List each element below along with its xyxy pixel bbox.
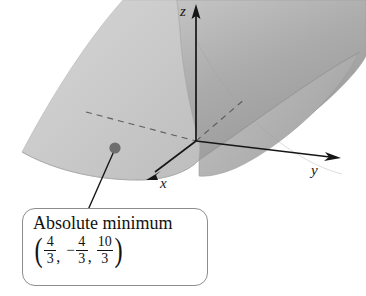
coordinate-y-minus-sign: − <box>66 243 74 258</box>
y-axis-label: y <box>311 163 318 178</box>
x-axis-label: x <box>160 176 167 191</box>
minimum-point-marker <box>109 142 120 153</box>
coordinate-separator-2: , <box>88 249 92 266</box>
coordinate-z-numerator: 10 <box>97 235 113 250</box>
absolute-minimum-callout: Absolute minimum ( 4 3 , − 4 3 , 10 3 ) <box>22 208 208 286</box>
coordinate-z-denominator: 3 <box>100 251 109 266</box>
coordinate-separator-1: , <box>56 249 60 266</box>
coordinate-y-fraction: 4 3 <box>76 235 88 266</box>
coordinate-x-denominator: 3 <box>46 251 55 266</box>
coordinate-x-numerator: 4 <box>46 235 55 250</box>
z-axis-label: z <box>180 4 186 19</box>
figure-container: z x y Absolute minimum ( 4 3 , − 4 3 , 1… <box>0 0 366 296</box>
coordinate-y-numerator: 4 <box>77 235 86 250</box>
coordinate-x-fraction: 4 3 <box>44 235 56 266</box>
open-paren: ( <box>35 236 43 264</box>
surface-left-panel <box>22 0 200 180</box>
callout-coordinates: ( 4 3 , − 4 3 , 10 3 ) <box>33 235 207 266</box>
coordinate-z-fraction: 10 3 <box>97 235 113 266</box>
close-paren: ) <box>114 236 122 264</box>
coordinate-y-denominator: 3 <box>77 251 86 266</box>
